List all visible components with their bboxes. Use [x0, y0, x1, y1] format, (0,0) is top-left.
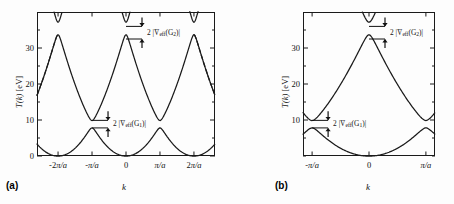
x-tick-label: 0	[367, 160, 371, 170]
y-tick-label: 20	[285, 79, 300, 89]
x-tick-label: 0	[124, 160, 128, 170]
y-tick-label: 30	[285, 43, 300, 53]
x-tick-label: π/a	[420, 160, 431, 170]
panel-caption-b: (b)	[275, 180, 288, 191]
gap-label-g2-b: 2 |V̄eff(G2)|	[390, 28, 423, 37]
x-tick-label: 2π/a	[186, 160, 201, 170]
band-curves-a	[0, 0, 227, 204]
y-tick-label: 30	[19, 43, 34, 53]
panel-b: T(k) [eV] k (b) 2 |V̄eff(G2)| 2 |V̄eff(G…	[227, 0, 454, 204]
y-tick-label: 10	[285, 115, 300, 125]
x-tick-label: -π/a	[85, 160, 99, 170]
gap-label-g1-a: 2 |V̄eff(G1)|	[113, 119, 146, 128]
gap-label-g1-b: 2 |V̄eff(G1)|	[333, 119, 366, 128]
panel-caption-a: (a)	[6, 180, 18, 191]
x-axis-label-b: k	[366, 182, 370, 192]
x-axis-label-a: k	[122, 182, 126, 192]
x-tick-label: π/a	[155, 160, 166, 170]
y-tick-label: 0	[19, 151, 34, 161]
y-tick-label: 10	[19, 115, 34, 125]
y-tick-label: 20	[19, 79, 34, 89]
x-tick-label: -2π/a	[49, 160, 67, 170]
x-tick-label: -π/a	[305, 160, 319, 170]
panel-a: T(k) [eV] k (a) 2 |V̄eff(G2)| 2 |V̄eff(G…	[0, 0, 227, 204]
gap-label-g2-a: 2 |V̄eff(G2)|	[147, 28, 180, 37]
figure-root: T(k) [eV] k (a) 2 |V̄eff(G2)| 2 |V̄eff(G…	[0, 0, 454, 204]
